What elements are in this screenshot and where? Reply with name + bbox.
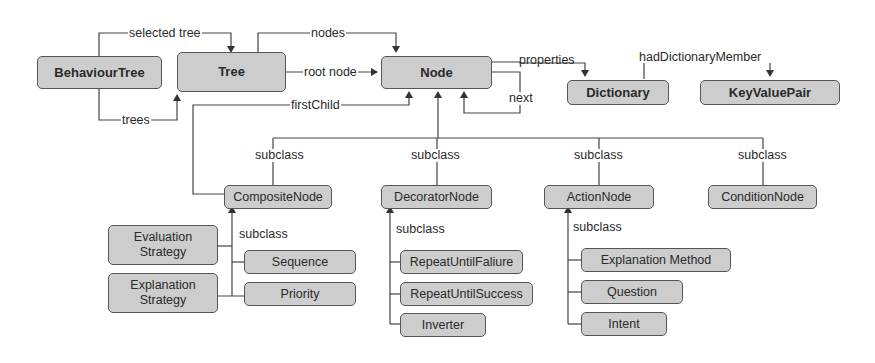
node-sequence: Sequence (244, 250, 356, 274)
node-label: Node (420, 65, 453, 81)
edge-label-subclass-composite-children: subclass (238, 228, 289, 241)
node-label: Tree (218, 64, 245, 80)
node-question: Question (581, 280, 683, 304)
node-intent: Intent (581, 312, 667, 336)
edge-label-subclass-action: subclass (573, 149, 624, 162)
node-label: Explanation Method (601, 253, 712, 268)
node-action-node: ActionNode (544, 185, 654, 209)
edge-label-selected-tree: selected tree (128, 27, 202, 40)
edge-label-subclass-decorator-children: subclass (395, 223, 446, 236)
node-composite-node: CompositeNode (224, 185, 332, 209)
node-label: ConditionNode (721, 190, 804, 205)
node-label: Sequence (272, 255, 328, 270)
node-evaluation-strategy: Evaluation Strategy (108, 225, 218, 265)
node-inverter: Inverter (400, 313, 486, 337)
edge-label-subclass-action-children: subclass (572, 221, 623, 234)
node-explanation-strategy: Explanation Strategy (108, 273, 218, 313)
node-dictionary: Dictionary (567, 80, 669, 105)
node-label: CompositeNode (233, 190, 323, 205)
node-label: BehaviourTree (54, 65, 144, 81)
node-label: Question (607, 285, 657, 300)
edge-label-root-node: root node (303, 66, 358, 79)
node-label: Evaluation Strategy (123, 230, 203, 260)
edge-label-nodes: nodes (310, 27, 346, 40)
node-label: ActionNode (567, 190, 632, 205)
node-node: Node (381, 56, 492, 89)
node-label: Priority (281, 287, 320, 302)
edge-label-next: next (508, 92, 534, 105)
node-repeat-until-failure: RepeatUntilFaliure (400, 250, 523, 274)
edge-label-properties: properties (518, 54, 576, 67)
node-explanation-method: Explanation Method (581, 248, 731, 272)
edge-label-trees: trees (121, 114, 151, 127)
node-behaviour-tree: BehaviourTree (37, 56, 162, 89)
node-label: DecoratorNode (394, 190, 479, 205)
node-priority: Priority (244, 282, 356, 306)
edge-label-subclass-decorator: subclass (410, 149, 461, 162)
node-key-value-pair: KeyValuePair (700, 80, 840, 105)
node-label: RepeatUntilSuccess (410, 287, 523, 302)
edge-label-subclass-composite: subclass (254, 149, 305, 162)
edge-label-first-child: firstChild (290, 99, 341, 112)
edge-label-had-dictionary-member: hadDictionaryMember (638, 51, 762, 64)
node-label: Inverter (422, 318, 464, 333)
node-decorator-node: DecoratorNode (381, 185, 492, 209)
node-label: RepeatUntilFaliure (410, 255, 514, 270)
node-condition-node: ConditionNode (708, 185, 817, 209)
node-tree: Tree (177, 52, 286, 92)
node-label: Explanation Strategy (123, 278, 203, 308)
node-label: Dictionary (586, 85, 650, 101)
node-label: KeyValuePair (729, 85, 811, 101)
node-label: Intent (608, 317, 639, 332)
node-repeat-until-success: RepeatUntilSuccess (400, 282, 533, 306)
edge-label-subclass-condition: subclass (737, 149, 788, 162)
